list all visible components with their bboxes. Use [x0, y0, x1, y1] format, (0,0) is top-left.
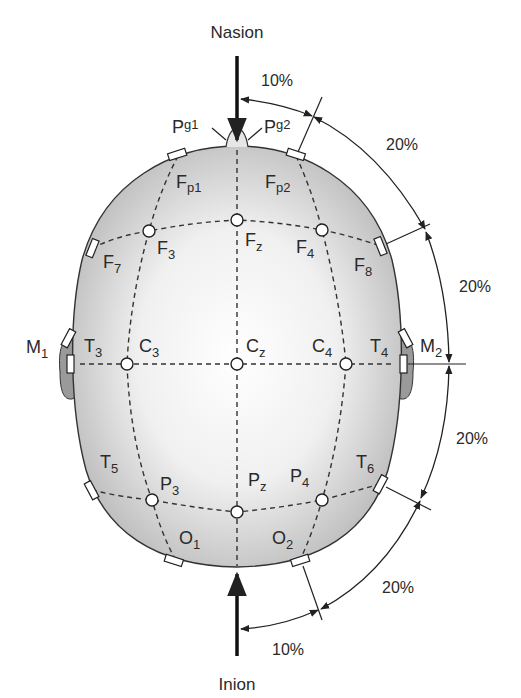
label-M2: M2 [420, 336, 442, 360]
inion-label: Inion [219, 675, 256, 694]
electrode-P3 [146, 494, 158, 506]
label-Pg2: Pg2 [264, 117, 290, 137]
electrode-Pz [231, 506, 243, 518]
electrode-C3 [121, 358, 133, 370]
pct-upper-right-1: 20% [386, 136, 418, 153]
nasion-label: Nasion [211, 23, 264, 42]
label-M1: M1 [26, 337, 48, 361]
pct-top-arc: 10% [261, 72, 293, 89]
label-Pg1: Pg1 [172, 117, 198, 137]
electrode-P4 [316, 494, 328, 506]
electrode-Fz [231, 214, 243, 226]
electrode-pad-T3 [67, 355, 74, 373]
electrode-Cz [231, 358, 243, 370]
electrode-pad-T4 [400, 355, 407, 373]
pct-lower-right-2: 20% [382, 579, 414, 596]
pct-bottom-arc: 10% [272, 641, 304, 658]
pct-upper-right-2: 20% [459, 278, 491, 295]
pct-lower-right-1: 20% [456, 430, 488, 447]
eeg-diagram: Nasion Inion 10% 20% 20% 20% 20% 10% Pg1… [0, 0, 521, 698]
electrode-F3 [143, 225, 155, 237]
electrode-F4 [316, 224, 328, 236]
electrode-C4 [340, 358, 352, 370]
